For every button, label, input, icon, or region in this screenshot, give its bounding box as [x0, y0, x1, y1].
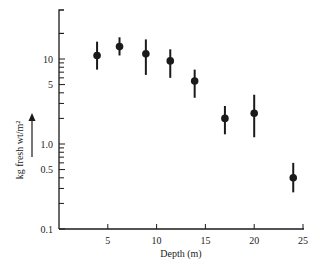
point-marker	[250, 109, 258, 117]
point-marker	[142, 50, 150, 58]
data-point	[93, 42, 101, 70]
point-marker	[166, 57, 174, 65]
y-axis-line	[59, 10, 64, 229]
point-marker	[191, 77, 199, 85]
data-point	[191, 70, 199, 98]
y-axis-title: kg fresh wt/m²	[14, 121, 25, 180]
x-tick-label: 25	[298, 235, 308, 246]
point-marker	[221, 115, 229, 123]
point-marker	[93, 52, 101, 60]
x-tick-label: 15	[200, 235, 210, 246]
data-point	[289, 163, 297, 192]
data-point	[221, 106, 229, 134]
x-tick-label: 20	[249, 235, 259, 246]
x-tick-label: 10	[152, 235, 162, 246]
data-point	[250, 95, 258, 138]
y-tick-label: 10	[43, 54, 53, 65]
y-tick-label: 0.5	[41, 164, 54, 175]
y-tick-label: 1.0	[41, 139, 54, 150]
point-marker	[289, 174, 297, 182]
x-axis-title: Depth (m)	[160, 248, 201, 260]
data-point	[142, 39, 150, 74]
x-tick-label: 5	[105, 235, 110, 246]
chart: 5101520250.10.51.0510Depth (m)kg fresh w…	[0, 0, 320, 273]
axes	[59, 10, 304, 229]
data-points	[93, 37, 297, 192]
y-tick-label: 0.1	[41, 224, 54, 235]
arrow-up-icon-head	[29, 113, 36, 121]
data-point	[166, 49, 174, 78]
point-marker	[116, 43, 124, 51]
y-tick-label: 5	[48, 79, 53, 90]
data-point	[116, 37, 124, 55]
